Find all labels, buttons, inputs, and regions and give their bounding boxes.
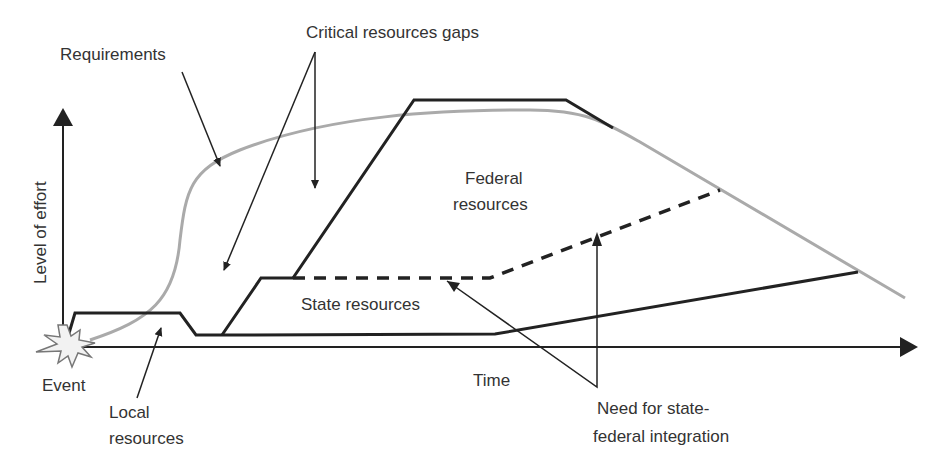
requirements-label: Requirements [60,44,166,66]
local-arrow [137,328,161,398]
state-resources-line [222,278,293,335]
requirements-arrow [182,72,220,166]
y-axis-label: Level of effort [31,181,51,284]
need-label-2: federal integration [593,426,729,448]
event-label: Event [42,375,85,397]
critical-gaps-label: Critical resources gaps [306,22,479,44]
y-axis-arrow-icon [53,108,73,126]
federal-resources-line [293,100,613,278]
need-label-1: Need for state- [597,398,709,420]
federal-label-2: resources [453,194,528,216]
local-label-1: Local [109,402,150,424]
requirements-curve [90,110,905,340]
federal-label-1: Federal [465,168,523,190]
x-axis-arrow-icon [900,337,918,357]
event-starburst-icon [36,325,95,367]
state-label: State resources [301,294,420,316]
integration-arrow-stem [447,240,597,387]
local-label-2: resources [109,428,184,450]
y-axis [53,108,73,345]
integration-arrowhead-left-icon [447,281,460,292]
local-resources-line [67,313,222,340]
x-axis-label: Time [473,370,510,392]
gap-arrow-1 [224,52,315,270]
x-axis [63,337,918,357]
